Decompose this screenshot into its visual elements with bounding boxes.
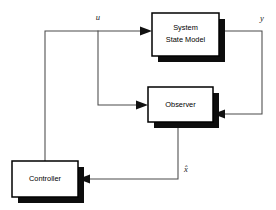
system-state-model-label-line1: System [173, 23, 198, 32]
signal-label-x-hat: x̂ [183, 164, 188, 174]
wire-y-to-observer [219, 31, 262, 114]
controller-label: Controller [29, 174, 62, 183]
signal-label-u: u [96, 12, 100, 22]
system-state-model-label-line2: State Model [166, 35, 206, 44]
diagram-svg: System State Model Observer Controller u… [0, 0, 276, 210]
block-system-state-model[interactable]: System State Model [152, 13, 225, 62]
wire-u-to-observer [98, 31, 138, 105]
signal-label-y: y [259, 13, 264, 23]
arrowhead-into-system-state-model [140, 27, 152, 36]
wire-xhat-to-controller [88, 122, 178, 179]
observer-label: Observer [165, 100, 196, 109]
block-diagram-canvas: System State Model Observer Controller u… [0, 0, 276, 210]
arrowhead-into-observer-left [136, 101, 148, 110]
block-observer[interactable]: Observer [148, 87, 219, 128]
block-controller[interactable]: Controller [12, 161, 84, 203]
